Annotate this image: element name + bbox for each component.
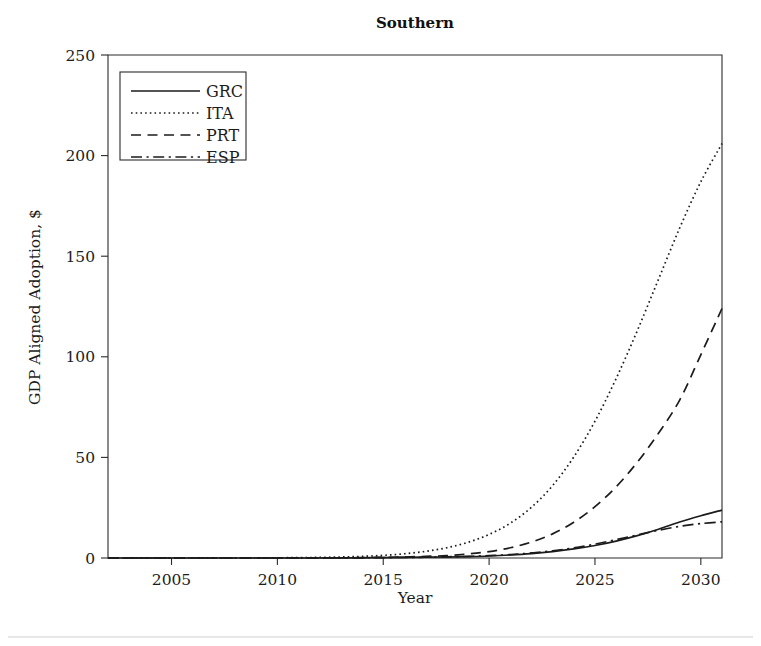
- y-tick-label: 50: [75, 449, 95, 467]
- x-tick-label: 2010: [258, 571, 297, 589]
- legend-label-esp: ESP: [206, 148, 240, 167]
- y-tick-label: 0: [85, 550, 95, 568]
- y-tick-label: 150: [65, 248, 95, 266]
- y-tick-label: 250: [65, 47, 95, 65]
- page-title: Southern: [376, 14, 454, 32]
- legend-label-prt: PRT: [206, 126, 240, 145]
- x-tick-label: 2030: [681, 571, 720, 589]
- chart-legend: GRCITAPRTESP: [120, 72, 246, 167]
- y-tick-label: 100: [65, 348, 95, 366]
- line-chart: Southern 050100150200250 200520102015202…: [0, 0, 761, 646]
- chart-figure: Southern 050100150200250 200520102015202…: [0, 0, 761, 646]
- x-tick-label: 2015: [364, 571, 403, 589]
- y-tick-label: 200: [65, 147, 95, 165]
- y-axis-title: GDP Aligned Adoption, $: [26, 209, 44, 405]
- y-axis-ticks: 050100150200250: [65, 47, 108, 568]
- x-axis-title: Year: [397, 589, 433, 607]
- legend-label-ita: ITA: [206, 104, 234, 123]
- x-axis-ticks: 200520102015202020252030: [152, 558, 721, 589]
- x-tick-label: 2020: [469, 571, 508, 589]
- x-tick-label: 2005: [152, 571, 191, 589]
- x-tick-label: 2025: [575, 571, 614, 589]
- legend-label-grc: GRC: [206, 82, 243, 101]
